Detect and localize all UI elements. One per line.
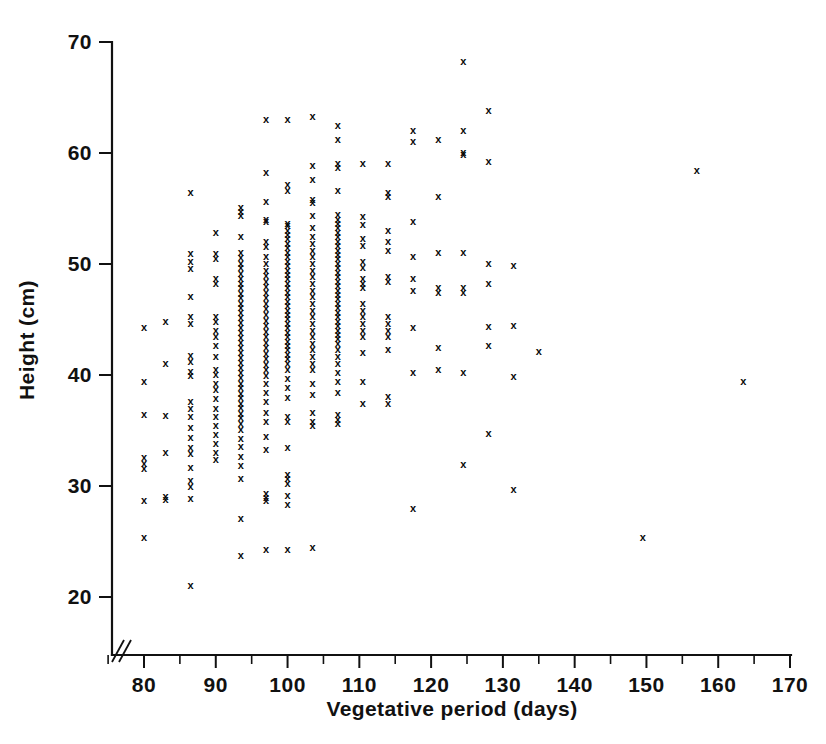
data-point: x [410, 366, 417, 378]
data-point: x [410, 135, 417, 147]
data-point: x [310, 196, 317, 208]
data-point: x [360, 157, 367, 169]
x-tick-label: 100 [269, 673, 306, 696]
data-point: x [284, 477, 291, 489]
data-point: x [141, 462, 148, 474]
data-point: x [335, 417, 342, 429]
data-point: x [188, 480, 195, 492]
data-point: x [410, 215, 417, 227]
data-point: x [310, 173, 317, 185]
data-point: x [238, 459, 245, 471]
y-axis-title: Height (cm) [15, 280, 38, 400]
x-tick-label: 140 [556, 673, 593, 696]
data-point: x [511, 319, 518, 331]
x-tick-label: 160 [700, 673, 737, 696]
data-point: x [485, 257, 492, 269]
data-point: x [188, 369, 195, 381]
x-tick-label: 170 [772, 673, 809, 696]
data-point: x [310, 419, 317, 431]
data-point: x [385, 157, 392, 169]
data-point: x [410, 321, 417, 333]
data-point: x [263, 543, 270, 555]
data-point: x [162, 493, 169, 505]
plot-canvas: 8090100110120130140150160170 20304050607… [0, 0, 826, 744]
data-point: x [360, 281, 367, 293]
data-point: x [335, 119, 342, 131]
data-point: x [385, 190, 392, 202]
x-tick-label: 120 [413, 673, 450, 696]
data-point: x [460, 124, 467, 136]
data-point: x [213, 453, 220, 465]
data-point: x [460, 148, 467, 160]
x-tick-label: 150 [628, 673, 665, 696]
y-axis-ticks [99, 42, 112, 597]
data-point: x [141, 494, 148, 506]
data-point: x [385, 244, 392, 256]
x-axis-title: Vegetative period (days) [326, 697, 577, 720]
data-point: x [284, 441, 291, 453]
data-point: x [263, 215, 270, 227]
data-point: x [213, 252, 220, 264]
data-point: x [162, 357, 169, 369]
data-point: x [460, 458, 467, 470]
data-point: x [435, 246, 442, 258]
data-point: x [188, 461, 195, 473]
data-point: x [162, 315, 169, 327]
data-point: x [460, 246, 467, 258]
data-point: x [141, 321, 148, 333]
data-point: x [263, 113, 270, 125]
data-point: x [263, 430, 270, 442]
data-point: x [162, 446, 169, 458]
data-point: x [640, 531, 647, 543]
data-point: x [740, 375, 747, 387]
y-axis-tick-labels: 203040506070 [68, 30, 92, 608]
data-point: x [310, 159, 317, 171]
data-point: x [485, 339, 492, 351]
data-point: x [385, 343, 392, 355]
y-tick-label: 50 [68, 252, 92, 275]
y-tick-label: 30 [68, 474, 92, 497]
y-tick-label: 70 [68, 30, 92, 53]
data-point: x [238, 209, 245, 221]
data-point: x [410, 502, 417, 514]
x-tick-label: 90 [204, 673, 228, 696]
data-point: x [460, 55, 467, 67]
data-point: x [485, 155, 492, 167]
data-point: x [238, 230, 245, 242]
data-point: x [511, 370, 518, 382]
data-point: x [141, 375, 148, 387]
data-point: x [188, 317, 195, 329]
data-point: x [284, 498, 291, 510]
x-tick-label: 130 [485, 673, 522, 696]
data-point: x [188, 579, 195, 591]
data-point: x [188, 290, 195, 302]
data-point: x [385, 275, 392, 287]
data-point: x [485, 427, 492, 439]
data-point: x [435, 363, 442, 375]
data-point: x [141, 531, 148, 543]
data-point: x [435, 190, 442, 202]
data-point: x [435, 133, 442, 145]
data-point: x [536, 345, 543, 357]
data-point: x [485, 104, 492, 116]
data-point: x [485, 277, 492, 289]
data-point: x [284, 415, 291, 427]
data-point: x [141, 408, 148, 420]
x-tick-label: 80 [132, 673, 156, 696]
data-point: x [263, 166, 270, 178]
data-point: x [360, 330, 367, 342]
data-point: x [694, 164, 701, 176]
data-point: x [263, 195, 270, 207]
data-point: x [310, 209, 317, 221]
data-point: x [410, 250, 417, 262]
data-point: x [511, 483, 518, 495]
data-point-markers: xxxxxxxxxxxxxxxxxxxxxxxxxxxxxxxxxxxxxxxx… [141, 55, 747, 591]
data-point: x [188, 447, 195, 459]
scatter-plot-figure: 8090100110120130140150160170 20304050607… [0, 0, 826, 744]
data-point: x [284, 184, 291, 196]
x-axis-tick-labels: 8090100110120130140150160170 [132, 673, 808, 696]
data-point: x [310, 363, 317, 375]
y-tick-label: 60 [68, 141, 92, 164]
data-point: x [385, 330, 392, 342]
data-point: x [335, 386, 342, 398]
